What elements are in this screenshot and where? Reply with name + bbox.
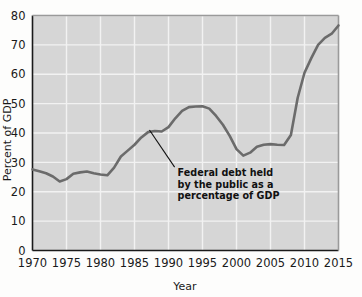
x-tick-label: 1995	[188, 256, 217, 270]
x-axis-title: Year	[172, 280, 197, 293]
y-tick-label: 60	[11, 67, 26, 81]
y-tick-label: 80	[11, 9, 26, 23]
annotation-text-line: percentage of GDP	[178, 190, 280, 201]
y-tick-label: 10	[11, 214, 26, 228]
x-tick-label: 2010	[290, 256, 319, 270]
x-tick-label: 2000	[222, 256, 251, 270]
y-axis-title: Percent of GDP	[1, 98, 14, 181]
annotation-text-line: by the public as a	[178, 179, 274, 190]
annotation-text-line: Federal debt held	[178, 167, 274, 178]
x-tick-label: 2015	[324, 256, 353, 270]
x-tick-label: 2005	[256, 256, 285, 270]
chart-figure: 1970197519801985199019952000200520102015…	[0, 0, 362, 297]
y-tick-label: 20	[11, 185, 26, 199]
x-tick-label: 1985	[120, 256, 149, 270]
x-tick-label: 1990	[154, 256, 183, 270]
y-tick-label: 70	[11, 38, 26, 52]
x-tick-label: 1980	[86, 256, 115, 270]
x-tick-label: 1975	[52, 256, 81, 270]
y-tick-label: 0	[18, 244, 25, 258]
debt-to-gdp-line-chart: 1970197519801985199019952000200520102015…	[0, 0, 362, 297]
